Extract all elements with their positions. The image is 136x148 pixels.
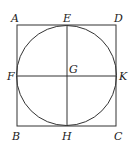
- label-f: F: [6, 70, 15, 83]
- geometry-diagram: A E D F G K B H C: [0, 0, 136, 148]
- label-c: C: [114, 130, 123, 143]
- label-e: E: [62, 12, 71, 25]
- label-k: K: [118, 70, 128, 83]
- label-d: D: [113, 12, 123, 25]
- label-h: H: [61, 130, 72, 143]
- label-g: G: [69, 63, 78, 76]
- label-b: B: [11, 130, 20, 143]
- label-a: A: [10, 12, 19, 25]
